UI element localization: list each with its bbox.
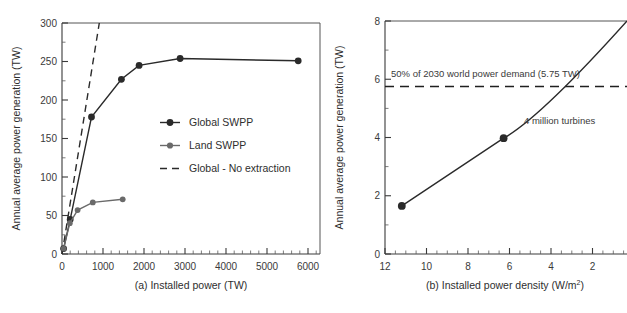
land-swpp-point-2 [67,220,73,226]
panel-b-xtick-6: 6 [507,261,513,272]
panel-b-xtick-2: 2 [590,261,596,272]
panel-b: 8 6 4 2 0 [333,16,627,292]
panel-a-xtick-0: 0 [59,261,65,272]
panel-b-xtick-10: 10 [421,261,433,272]
panel-b-ytick-0: 0 [374,249,380,260]
panel-a-x-axis-title: (a) Installed power (TW) [135,279,248,291]
power-density-curve [402,21,627,206]
panel-a-ytick-0: 0 [51,249,57,260]
panel-a-xtick-4000: 4000 [215,261,238,272]
global-swpp-point-6 [177,55,184,62]
panel-a: 300 250 200 150 100 50 0 [10,18,320,292]
panel-b-ytick-4: 4 [374,132,380,143]
figure-container: 300 250 200 150 100 50 0 [0,0,627,313]
annotation-4-million-turbines: 4 million turbines [524,115,596,126]
panel-b-ytick-2: 2 [374,190,380,201]
panel-b-y-ticks [385,21,391,254]
demand-line-label: 50% of 2030 world power demand (5.75 TW) [391,68,580,79]
panel-a-xtick-1000: 1000 [92,261,115,272]
legend-marker-land-swpp [167,142,173,148]
panel-a-xtick-2000: 2000 [133,261,156,272]
panel-a-ytick-50: 50 [46,210,58,221]
global-swpp-polyline [64,59,299,249]
reference-line-2030-demand: 50% of 2030 world power demand (5.75 TW) [385,68,627,87]
legend-item-global-no-extraction[interactable]: Global - No extraction [160,162,291,174]
panel-a-xtick-6000: 6000 [297,261,320,272]
panel-b-xtick-12: 12 [379,261,391,272]
land-swpp-point-4 [90,200,96,206]
panel-b-xtick-4: 4 [548,261,554,272]
global-swpp-point-4 [118,76,125,83]
panel-a-ytick-250: 250 [40,56,57,67]
panel-a-x-ticks [62,248,308,254]
legend-label-no-extraction: Global - No extraction [189,162,291,174]
series-global-swpp [60,55,301,252]
power-density-point-1 [398,202,406,210]
panel-a-y-axis-title: Annual average power generation (TW) [10,47,22,231]
legend: Global SWPP Land SWPP Global - No extrac… [160,116,291,174]
global-swpp-point-7 [295,57,302,64]
panel-b-xtick-8: 8 [465,261,471,272]
legend-label-global-swpp: Global SWPP [189,116,253,128]
land-swpp-point-5 [120,196,126,202]
panel-b-ytick-6: 6 [374,74,380,85]
legend-item-land-swpp[interactable]: Land SWPP [160,139,246,151]
panel-b-x-axis-title-tail: ) [580,279,584,291]
panel-a-ytick-150: 150 [40,133,57,144]
panel-b-y-axis-title: Annual average power generation (TW) [333,46,345,230]
panel-a-ytick-100: 100 [40,172,57,183]
global-swpp-point-3 [88,114,95,121]
panel-a-ytick-300: 300 [40,18,57,29]
legend-label-land-swpp: Land SWPP [189,139,246,151]
panel-b-x-axis-title: (b) Installed power density (W/m2) [426,279,584,291]
legend-item-global-swpp[interactable]: Global SWPP [160,116,253,128]
power-density-point-2 [500,134,508,142]
global-swpp-point-5 [136,62,143,69]
legend-marker-global-swpp [167,119,174,126]
land-swpp-point-3 [75,207,81,213]
panel-b-x-axis-title-main: (b) Installed power density (W/m [426,279,577,291]
panel-a-ytick-200: 200 [40,95,57,106]
figure-svg: 300 250 200 150 100 50 0 [0,0,627,313]
panel-a-xtick-3000: 3000 [174,261,197,272]
land-swpp-point-1 [61,246,67,252]
panel-a-xtick-5000: 5000 [256,261,279,272]
panel-b-ytick-8: 8 [374,16,380,27]
